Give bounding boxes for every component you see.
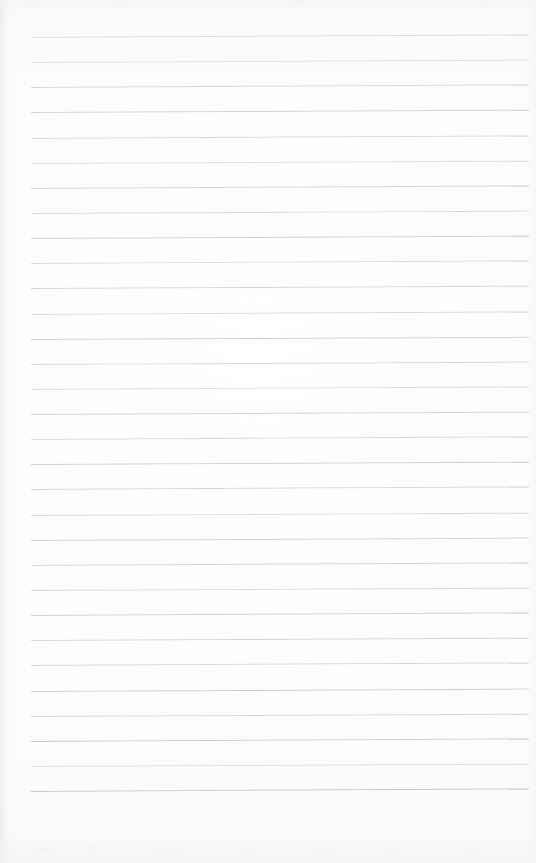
writing-area[interactable] (31, 37, 529, 797)
notebook-page (0, 0, 536, 863)
